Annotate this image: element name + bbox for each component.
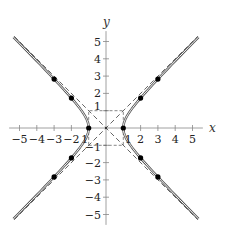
y-axis-label: y bbox=[102, 15, 110, 29]
x-tick-label: −3 bbox=[46, 133, 62, 146]
data-point bbox=[121, 125, 126, 130]
y-tick-label: −1 bbox=[85, 141, 101, 154]
data-point bbox=[155, 76, 160, 81]
y-tick-label: −5 bbox=[85, 209, 101, 222]
data-point bbox=[155, 174, 160, 179]
data-point bbox=[86, 125, 91, 130]
y-tick-label: 1 bbox=[94, 100, 101, 113]
origin-marker bbox=[105, 127, 107, 129]
x-tick-label: 4 bbox=[172, 133, 179, 146]
y-tick-label: 2 bbox=[94, 87, 101, 100]
y-tick-label: −4 bbox=[85, 191, 101, 204]
x-tick-label: 2 bbox=[137, 133, 144, 146]
data-point bbox=[69, 155, 74, 160]
data-point bbox=[69, 95, 74, 100]
y-tick-label: 3 bbox=[94, 70, 101, 83]
hyperbola-plot: xy−5−4−3−2112345−5−4−3−2−112345 bbox=[0, 0, 228, 231]
x-axis-label: x bbox=[209, 121, 216, 135]
y-tick-label: −2 bbox=[85, 157, 101, 170]
x-tick-label: 3 bbox=[154, 133, 161, 146]
x-tick-label: −2 bbox=[63, 133, 79, 146]
x-tick-label: 1 bbox=[125, 133, 132, 146]
y-tick-label: −3 bbox=[85, 174, 101, 187]
x-tick-label: −5 bbox=[11, 133, 27, 146]
data-point bbox=[138, 95, 143, 100]
data-point bbox=[138, 155, 143, 160]
y-tick-label: 5 bbox=[94, 36, 101, 49]
y-tick-label: 4 bbox=[94, 53, 101, 66]
data-point bbox=[52, 174, 57, 179]
data-point bbox=[52, 76, 57, 81]
x-tick-label: 5 bbox=[189, 133, 196, 146]
x-tick-label: −4 bbox=[29, 133, 45, 146]
